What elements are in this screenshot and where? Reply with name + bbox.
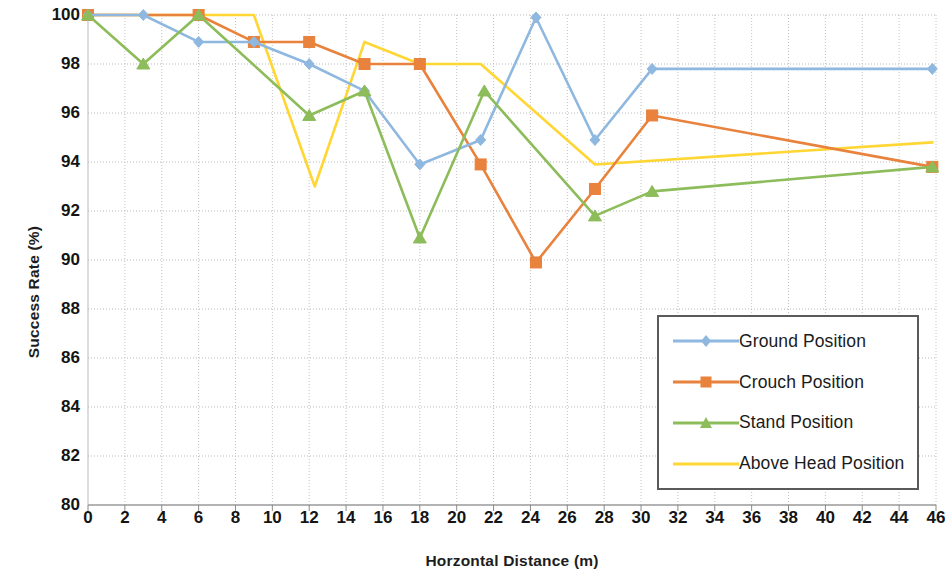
y-tick-label-98: 98 (28, 54, 80, 74)
legend-item-above-head-position[interactable]: Above Head Position (659, 443, 917, 484)
data-point-diamond (194, 36, 204, 47)
legend-swatch (673, 332, 739, 350)
square-marker-icon (698, 374, 714, 390)
square-marker (475, 159, 486, 170)
series-line (88, 15, 932, 238)
square-marker (414, 59, 425, 70)
diamond-marker-icon (698, 333, 714, 349)
diamond-marker (194, 36, 204, 47)
triangle-marker (413, 232, 426, 243)
data-point-square (589, 183, 600, 194)
data-point-triangle (478, 85, 491, 96)
triangle-marker-icon (698, 415, 714, 431)
y-tick-label-100: 100 (28, 5, 80, 25)
data-point-diamond (476, 134, 486, 145)
data-point-square (530, 257, 541, 268)
legend-swatch (673, 414, 739, 432)
y-tick-label-96: 96 (28, 103, 80, 123)
y-tick-label-90: 90 (28, 250, 80, 270)
diamond-marker (304, 59, 314, 70)
y-tick-label-88: 88 (28, 299, 80, 319)
diamond-icon (701, 335, 711, 347)
data-point-square (359, 59, 370, 70)
data-point-diamond (138, 10, 148, 21)
square-marker (647, 110, 658, 121)
legend-line (673, 462, 739, 465)
legend-label: Ground Position (739, 331, 866, 352)
x-tick-label-46: 46 (916, 508, 952, 528)
legend-item-stand-position[interactable]: Stand Position (659, 403, 917, 444)
legend-label: Above Head Position (739, 453, 904, 474)
diamond-marker (476, 134, 486, 145)
y-tick-label-94: 94 (28, 152, 80, 172)
data-point-diamond (304, 59, 314, 70)
y-tick-label-92: 92 (28, 201, 80, 221)
x-axis-title: Horzontal Distance (m) (88, 552, 936, 570)
legend-label: Stand Position (739, 412, 853, 433)
data-point-square (475, 159, 486, 170)
data-point-diamond (531, 12, 541, 23)
data-point-square (414, 59, 425, 70)
series-line (88, 15, 932, 262)
legend-item-ground-position[interactable]: Ground Position (659, 321, 917, 362)
legend-label: Crouch Position (739, 372, 864, 393)
data-point-square (647, 110, 658, 121)
line-chart: Success Rate (%) 80828486889092949698100… (0, 0, 952, 584)
square-marker (304, 36, 315, 47)
legend-item-crouch-position[interactable]: Crouch Position (659, 362, 917, 403)
data-point-triangle (413, 232, 426, 243)
diamond-marker (531, 12, 541, 23)
data-point-square (304, 36, 315, 47)
y-tick-label-82: 82 (28, 446, 80, 466)
y-axis-tick-labels: 80828486889092949698100 (0, 0, 80, 584)
triangle-icon (700, 417, 712, 428)
y-tick-label-86: 86 (28, 348, 80, 368)
y-tick-label-84: 84 (28, 397, 80, 417)
square-icon (701, 377, 712, 388)
triangle-marker (478, 85, 491, 96)
square-marker (359, 59, 370, 70)
chart-legend: Ground PositionCrouch PositionStand Posi… (657, 315, 919, 490)
series-crouch-position (83, 10, 938, 268)
diamond-marker (138, 10, 148, 21)
legend-swatch (673, 373, 739, 391)
legend-swatch (673, 455, 739, 473)
square-marker (589, 183, 600, 194)
square-marker (530, 257, 541, 268)
series-stand-position (82, 9, 939, 243)
